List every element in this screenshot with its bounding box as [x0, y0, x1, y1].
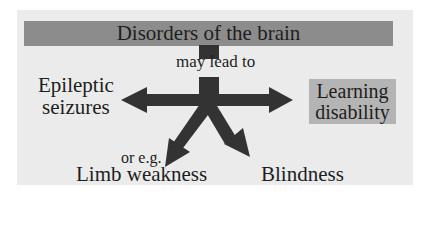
outcome-blindness: Blindness: [261, 162, 344, 187]
outcome-label-line1: Epileptic: [38, 74, 114, 96]
outcome-epileptic-seizures: Epileptic seizures: [38, 74, 114, 118]
outcome-label-line1: Learning: [309, 81, 396, 102]
connector-label: may lead to: [176, 52, 255, 72]
outcome-label-line2: disability: [309, 102, 396, 123]
outcome-label-line2: seizures: [38, 96, 114, 118]
outcome-limb-weakness: Limb weakness: [76, 162, 207, 187]
outcome-learning-disability: Learning disability: [309, 79, 396, 124]
